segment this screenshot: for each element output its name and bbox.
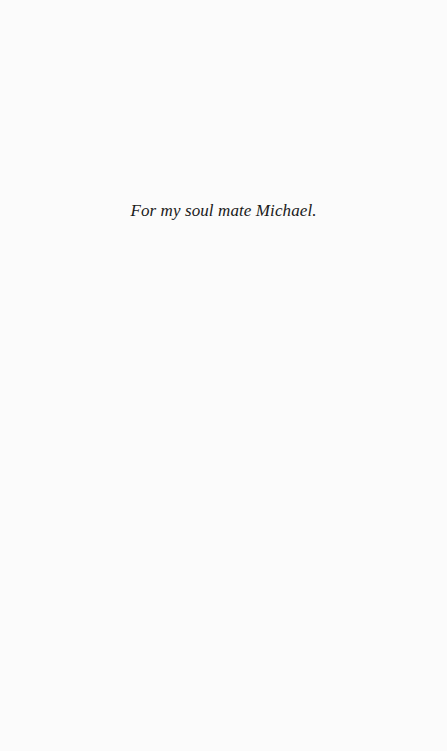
book-page: For my soul mate Michael. bbox=[0, 0, 447, 751]
dedication-text: For my soul mate Michael. bbox=[0, 200, 447, 222]
